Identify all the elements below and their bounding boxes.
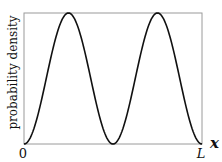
y-axis-label: probability density (6, 15, 20, 129)
x-axis-label: x (209, 134, 220, 152)
plot-frame (24, 13, 202, 144)
x-tick-label-0: 0 (19, 146, 27, 161)
chart: 0 L x probability density (0, 0, 222, 162)
probability-density-curve (24, 13, 202, 144)
x-tick-label-L: L (196, 146, 206, 161)
